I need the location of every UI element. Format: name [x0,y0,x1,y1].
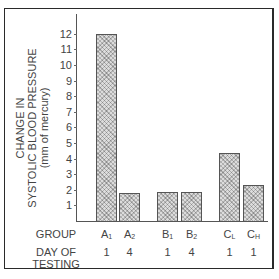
bar-a2 [119,193,140,222]
y-tick-label: 4 [52,153,72,165]
y-tick-label: 10 [52,59,72,71]
category-label-b1: B1 [156,228,180,240]
category-subscript: L [232,233,236,240]
category-label-a2: A2 [118,228,142,240]
y-tick-mark [74,96,77,97]
y-tick-mark [74,159,77,160]
category-label-b2: B2 [180,228,204,240]
y-tick-label: 2 [52,184,72,196]
category-subscript: 2 [193,233,197,240]
y-tick-label: 1 [52,199,72,211]
y-tick-label: 12 [52,28,72,40]
category-subscript: 1 [108,233,112,240]
day-of-testing-b2: 4 [180,246,204,258]
bar-b2 [181,192,202,222]
y-tick-label: 11 [52,43,72,55]
y-tick-mark [74,190,77,191]
category-subscript: H [255,233,260,240]
day-row-title-line-2: TESTING [26,258,86,271]
category-label-ch: CH [242,228,266,240]
y-axis-label-line-3: (mm of mercury) [38,40,50,215]
category-label-cl: CL [218,228,242,240]
y-tick-mark [74,127,77,128]
bar-cl [219,153,240,222]
category-subscript: 2 [131,233,135,240]
y-tick-mark [74,205,77,206]
y-tick-mark [74,81,77,82]
day-of-testing-cl: 1 [218,246,242,258]
category-label-a1: A1 [95,228,119,240]
y-tick-label: 3 [52,168,72,180]
y-tick-mark [74,143,77,144]
y-tick-mark [74,65,77,66]
y-tick-mark [74,49,77,50]
y-tick-mark [74,112,77,113]
y-tick-label: 6 [52,121,72,133]
bar-a1 [96,34,117,222]
y-axis-label: CHANGE IN SYSTOLIC BLOOD PRESSURE (mm of… [8,40,56,215]
y-tick-label: 9 [52,75,72,87]
y-tick-label: 7 [52,106,72,118]
day-of-testing-ch: 1 [242,246,266,258]
day-of-testing-b1: 1 [156,246,180,258]
y-tick-label: 8 [52,90,72,102]
bar-b1 [157,192,178,222]
y-axis [76,14,77,222]
bar-ch [243,185,264,222]
y-tick-label: 5 [52,137,72,149]
y-tick-mark [74,174,77,175]
y-axis-label-line-2: SYSTOLIC BLOOD PRESSURE [26,40,38,215]
category-letter: C [247,228,255,240]
y-tick-mark [74,34,77,35]
group-row-title: GROUP [26,228,86,241]
category-subscript: 1 [169,233,173,240]
day-of-testing-a2: 4 [118,246,142,258]
y-axis-label-line-1: CHANGE IN [14,40,26,215]
day-of-testing-a1: 1 [95,246,119,258]
category-letter: C [224,228,232,240]
